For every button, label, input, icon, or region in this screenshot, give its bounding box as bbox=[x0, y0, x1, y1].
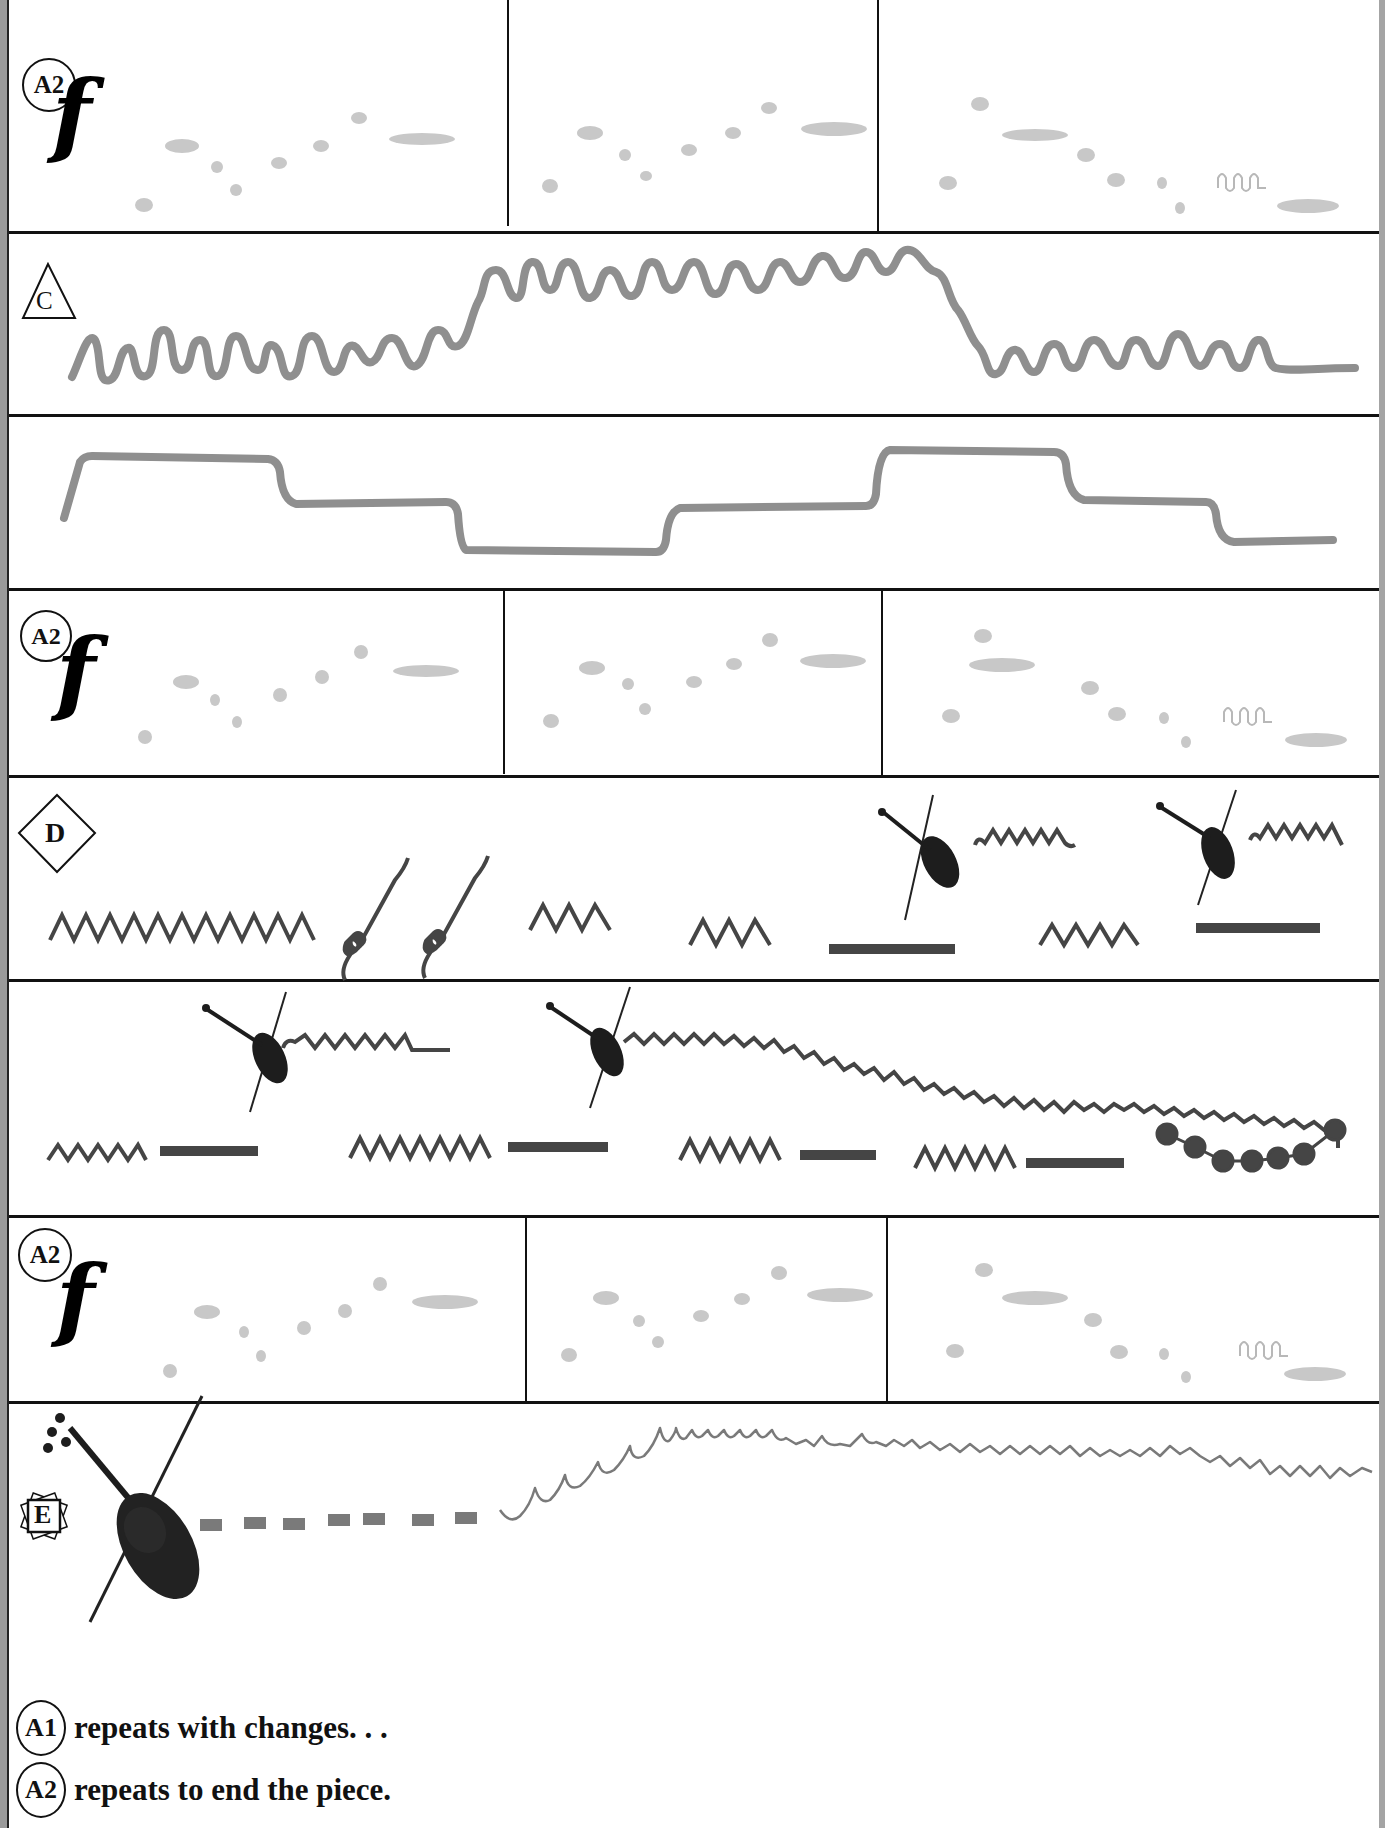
footer-badge-a2: A2 bbox=[16, 1762, 66, 1818]
footer-badge-label: A2 bbox=[25, 1775, 57, 1805]
dashed-line bbox=[200, 1512, 477, 1531]
rising-scallop-wave bbox=[500, 1428, 1372, 1519]
footer-line-a1: A1 repeats with changes. . . bbox=[16, 1700, 388, 1756]
footer-line-a2: A2 repeats to end the piece. bbox=[16, 1762, 391, 1818]
footer-text-a2: repeats to end the piece. bbox=[74, 1772, 391, 1808]
footer-text-a1: repeats with changes. . . bbox=[74, 1710, 388, 1746]
footer-badge-label: A1 bbox=[25, 1713, 57, 1743]
e-section-graphics bbox=[0, 0, 1385, 1828]
footer-badge-a1: A1 bbox=[16, 1700, 66, 1756]
violin-large-icon bbox=[43, 1396, 216, 1622]
